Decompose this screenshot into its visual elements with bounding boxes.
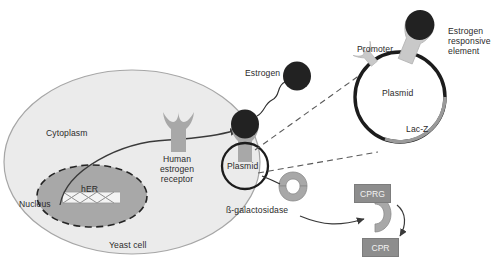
label-promoter: Promoter — [357, 44, 393, 54]
label-yeast-cell: Yeast cell — [109, 240, 146, 250]
cpr-box: CPR — [362, 238, 399, 257]
enlarged-plasmid — [353, 6, 445, 142]
label-cytoplasm: Cytoplasm — [46, 128, 88, 138]
enzyme-action-arrow — [300, 216, 364, 224]
beta-galactosidase-enzyme-shape — [279, 172, 307, 201]
diagram-canvas: Cytoplasm Nucleus hER Yeast cell Human e… — [0, 0, 504, 274]
label-her: hER — [81, 184, 98, 194]
label-human-estrogen-receptor: Human estrogen receptor — [146, 154, 208, 185]
cprg-to-cpr-arrow — [397, 205, 405, 236]
estrogen-binding-path — [257, 82, 285, 116]
label-estrogen-responsive-element: Estrogen responsive element — [448, 26, 491, 57]
label-enlarged-plasmid: Plasmid — [382, 88, 413, 98]
estrogen-ligand-bound — [231, 110, 259, 139]
estrogen-ligand-free — [283, 62, 311, 91]
label-beta-galactosidase: ß-galactosidase — [226, 205, 288, 215]
cprg-box: CPRG — [354, 184, 391, 203]
label-nucleus: Nucleus — [19, 199, 51, 209]
label-lacz: Lac-Z — [406, 124, 428, 134]
magnifier-dashed-line-bottom — [258, 152, 378, 173]
label-estrogen: Estrogen — [245, 68, 280, 78]
label-plasmid-in-cell: Plasmid — [227, 161, 258, 171]
plasmid-to-enzyme-link — [262, 176, 280, 184]
